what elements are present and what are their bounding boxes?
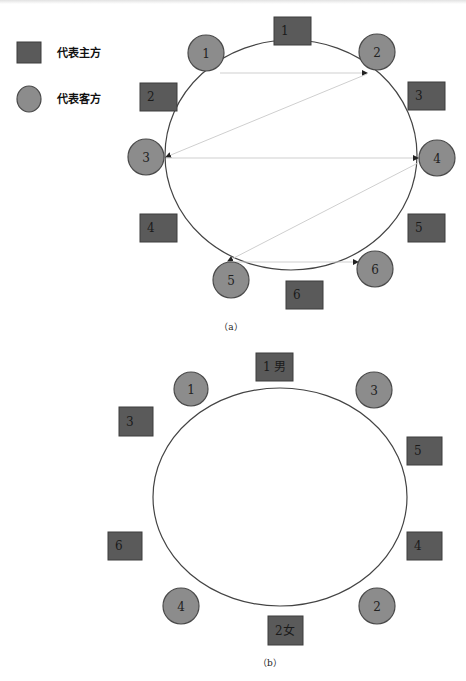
- host-seat-label: 2: [147, 90, 155, 104]
- host-seat-label: 1 男: [263, 360, 286, 374]
- rotation-arrow: [166, 74, 367, 157]
- host-seat: 6: [286, 281, 323, 309]
- host-seat-box: [286, 281, 323, 309]
- caption-b: （b）: [258, 658, 282, 668]
- host-seat-label: 4: [147, 221, 155, 235]
- host-seat: 2: [140, 83, 177, 111]
- host-seat-box: [408, 82, 445, 110]
- guest-seat: 4: [419, 140, 455, 176]
- host-seat-label: 4: [414, 539, 422, 553]
- host-seat-box: [407, 532, 442, 560]
- host-seat-box: [108, 532, 142, 560]
- guest-seat: 2: [359, 588, 395, 624]
- host-seat: 2女: [268, 616, 303, 645]
- guests-a: 123456: [128, 34, 455, 298]
- guest-seat: 5: [213, 262, 249, 298]
- guest-seat: 2: [359, 34, 395, 70]
- seating-diagram: 代表主方 代表客方 123456 123456 （a） 1 男35642女 13…: [0, 0, 466, 681]
- host-seat-label: 2女: [275, 623, 295, 638]
- host-seat-label: 5: [414, 444, 422, 458]
- guest-seat-label: 1: [187, 383, 195, 397]
- table-a: [165, 40, 417, 270]
- host-seat-box: [140, 214, 177, 242]
- guest-seat: 1: [188, 35, 224, 71]
- guest-seat-label: 3: [370, 384, 378, 398]
- guest-seat: 6: [357, 251, 393, 287]
- host-seat-box: [140, 83, 177, 111]
- guest-seat-label: 6: [371, 263, 379, 277]
- caption-a: （a）: [219, 322, 242, 332]
- guest-seat: 3: [128, 139, 164, 175]
- host-seat-label: 1: [281, 24, 289, 38]
- legend-guest-label: 代表客方: [56, 92, 101, 106]
- rotation-arrows: [166, 73, 418, 262]
- guest-seat-label: 2: [373, 46, 381, 60]
- diagram-a: 123456 123456 （a）: [128, 17, 455, 332]
- host-seat-label: 3: [126, 415, 134, 429]
- host-seat-label: 6: [115, 539, 123, 553]
- rotation-arrow: [228, 163, 418, 261]
- hosts-a: 123456: [140, 17, 445, 309]
- host-seat: 4: [407, 532, 442, 560]
- table-b: [153, 388, 407, 606]
- guest-seat: 4: [163, 588, 199, 624]
- diagram-b: 1 男35642女 1342 （b）: [108, 353, 442, 668]
- host-seat-label: 3: [415, 89, 423, 103]
- guest-seat-label: 5: [227, 274, 235, 288]
- guests-b: 1342: [163, 372, 395, 624]
- guest-seat-label: 3: [142, 151, 150, 165]
- guest-seat-label: 4: [433, 152, 441, 166]
- guest-seat-label: 2: [373, 600, 381, 614]
- host-seat-box: [274, 17, 311, 45]
- host-seat: 5: [408, 214, 445, 242]
- guest-seat-label: 1: [202, 47, 210, 61]
- legend: 代表主方 代表客方: [17, 42, 101, 112]
- guest-seat: 1: [174, 372, 208, 406]
- host-seat: 5: [407, 437, 442, 465]
- host-seat-box: [119, 407, 153, 436]
- guest-seat-label: 4: [177, 600, 185, 614]
- host-seat: 6: [108, 532, 142, 560]
- host-seat: 4: [140, 214, 177, 242]
- host-seat: 1: [274, 17, 311, 45]
- legend-host-swatch: [17, 42, 41, 63]
- legend-guest-swatch: [17, 86, 41, 112]
- legend-host-label: 代表主方: [56, 46, 101, 60]
- guest-seat: 3: [356, 372, 392, 408]
- host-seat-box: [408, 214, 445, 242]
- host-seat: 3: [119, 407, 153, 436]
- host-seat: 1 男: [256, 353, 293, 381]
- host-seat-label: 6: [293, 288, 301, 302]
- host-seat-label: 5: [415, 221, 423, 235]
- host-seat-box: [407, 437, 442, 465]
- host-seat: 3: [408, 82, 445, 110]
